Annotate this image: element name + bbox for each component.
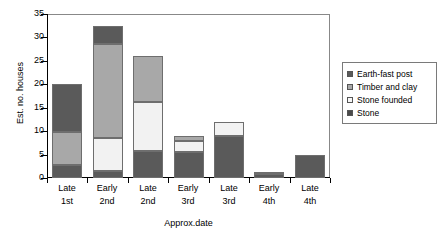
bar-segment[interactable] xyxy=(93,171,123,178)
legend-swatch-icon xyxy=(347,97,353,103)
x-tick-mark xyxy=(330,178,331,183)
y-tick-label: 0 xyxy=(39,172,44,182)
x-axis-label-line: Late xyxy=(209,182,249,195)
y-tick-label: 35 xyxy=(34,8,44,18)
legend-item[interactable]: Earth-fast post xyxy=(347,67,432,80)
x-axis-label: Late1st xyxy=(47,182,87,208)
x-axis-label: Late2nd xyxy=(128,182,168,208)
legend-item-label: Stone founded xyxy=(357,95,412,105)
bar-segment[interactable] xyxy=(93,138,123,171)
bar-chart: Est. no. houses 05101520253035 Late1stEa… xyxy=(0,0,439,240)
bar-segment[interactable] xyxy=(174,152,204,178)
bar-segment[interactable] xyxy=(133,56,163,102)
bar-segment[interactable] xyxy=(174,136,204,141)
y-tick-label: 10 xyxy=(34,125,44,135)
x-axis-label-line: 2nd xyxy=(87,195,127,208)
x-axis-label-line: 4th xyxy=(290,195,330,208)
bar-segment[interactable] xyxy=(93,44,123,138)
y-tick-label: 5 xyxy=(39,149,44,159)
bar-column[interactable] xyxy=(93,14,123,178)
x-axis-label: Late4th xyxy=(290,182,330,208)
bar-column[interactable] xyxy=(174,14,204,178)
bar-column[interactable] xyxy=(133,14,163,178)
bar-segment[interactable] xyxy=(214,122,244,136)
legend-swatch-icon xyxy=(347,110,353,116)
y-tick-label: 15 xyxy=(34,102,44,112)
y-tick-label: 25 xyxy=(34,55,44,65)
bar-segment[interactable] xyxy=(254,174,284,178)
legend-item-label: Earth-fast post xyxy=(357,69,412,79)
plot-area: 05101520253035 xyxy=(47,14,330,178)
x-axis-label-line: Early xyxy=(249,182,289,195)
bar-segment[interactable] xyxy=(295,155,325,178)
x-axis-label-line: 3rd xyxy=(168,195,208,208)
bar-segment[interactable] xyxy=(52,165,82,178)
bar-segment[interactable] xyxy=(93,26,123,45)
legend-item-label: Stone xyxy=(357,108,379,118)
legend-swatch-icon xyxy=(347,84,353,90)
x-axis-label: Early3rd xyxy=(168,182,208,208)
legend-item[interactable]: Timber and clay xyxy=(347,80,432,93)
x-axis-labels: Late1stEarly2ndLate2ndEarly3rdLate3rdEar… xyxy=(47,182,330,216)
x-axis-label-line: Early xyxy=(87,182,127,195)
x-axis-label-line: Late xyxy=(47,182,87,195)
bar-segment[interactable] xyxy=(133,102,163,151)
x-axis-label-line: 4th xyxy=(249,195,289,208)
legend-item-label: Timber and clay xyxy=(357,82,417,92)
bar-column[interactable] xyxy=(295,14,325,178)
y-tick-label: 20 xyxy=(34,78,44,88)
bar-column[interactable] xyxy=(254,14,284,178)
legend-item[interactable]: Stone founded xyxy=(347,93,432,106)
x-axis-label-line: 1st xyxy=(47,195,87,208)
x-axis-label-line: Late xyxy=(290,182,330,195)
bar-segment[interactable] xyxy=(52,132,82,165)
bar-column[interactable] xyxy=(52,14,82,178)
x-axis-label: Early2nd xyxy=(87,182,127,208)
y-axis-title: Est. no. houses xyxy=(15,23,25,163)
bars-layer xyxy=(47,14,330,178)
legend-item[interactable]: Stone xyxy=(347,106,432,119)
bar-segment[interactable] xyxy=(254,172,284,174)
bar-segment[interactable] xyxy=(52,84,82,132)
chart-legend: Earth-fast postTimber and clayStone foun… xyxy=(342,62,437,124)
x-axis-label-line: 3rd xyxy=(209,195,249,208)
x-axis-label-line: Early xyxy=(168,182,208,195)
bar-segment[interactable] xyxy=(174,141,204,153)
x-axis-label-line: 2nd xyxy=(128,195,168,208)
bar-segment[interactable] xyxy=(214,136,244,178)
x-axis-title: Approx.date xyxy=(47,218,330,228)
legend-swatch-icon xyxy=(347,71,353,77)
x-axis-label-line: Late xyxy=(128,182,168,195)
bar-segment[interactable] xyxy=(133,151,163,178)
y-tick-label: 30 xyxy=(34,31,44,41)
x-axis-label: Late3rd xyxy=(209,182,249,208)
bar-column[interactable] xyxy=(214,14,244,178)
x-axis-label: Early4th xyxy=(249,182,289,208)
